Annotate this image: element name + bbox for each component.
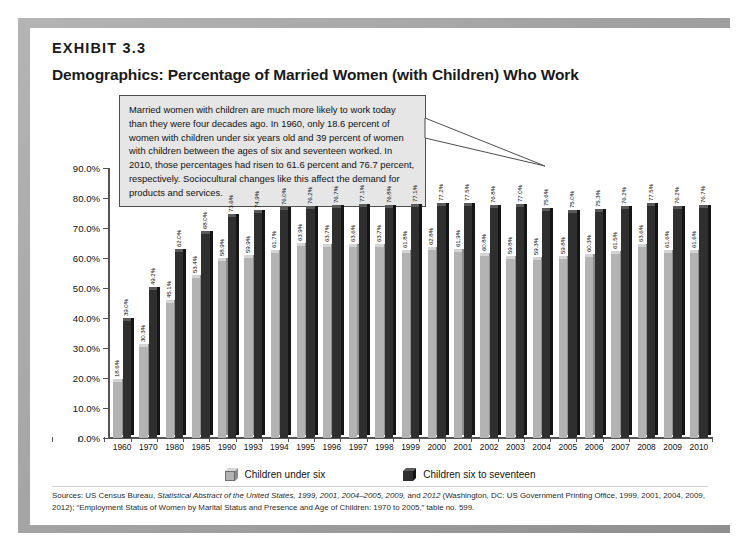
bar-face (297, 246, 305, 438)
bar-top-face (192, 275, 200, 278)
bar-group: 61.6%76.2% (664, 168, 682, 438)
bar-group: 61.9%77.5% (454, 168, 472, 438)
y-axis-tick (103, 288, 108, 289)
bar-face (306, 209, 314, 438)
x-axis-tick-label: 1994 (270, 442, 289, 452)
bar-value-label: 53.4% (191, 256, 198, 273)
x-axis-tick-label: 2000 (427, 442, 446, 452)
bar-value-label: 30.3% (139, 325, 146, 342)
bar-side-face (288, 207, 291, 435)
bar-value-label: 76.0% (280, 188, 287, 205)
bar-face (585, 257, 593, 438)
bar-face (638, 247, 646, 438)
y-axis-tick-label: 0.0% (78, 433, 100, 444)
bar-face (332, 208, 340, 438)
bar-value-label: 74.9% (253, 191, 260, 208)
x-axis-tick-label: 1995 (296, 442, 315, 452)
y-axis-tick-label: 50.0% (73, 283, 100, 294)
bar-side-face (393, 205, 396, 435)
bar-top-face (464, 203, 472, 206)
bar-value-label: 76.7% (699, 186, 706, 203)
chart-plot: 0.0%10.0%20.0%30.0%40.0%50.0%60.0%70.0%8… (52, 168, 712, 460)
bar-value-label: 63.6% (637, 225, 644, 242)
bar-side-face (550, 208, 553, 435)
exhibit-label: EXHIBIT 3.3 (52, 40, 146, 56)
bar-face (621, 209, 629, 438)
bar-face (437, 206, 445, 438)
bar-face (647, 206, 655, 439)
x-axis-tick (52, 437, 53, 442)
bar-face (280, 210, 288, 438)
bar-children-six-to-seventeen (254, 213, 262, 438)
bar-value-label: 77.0% (516, 185, 523, 202)
bar-top-face (218, 258, 226, 261)
bar-children-six-to-seventeen (568, 213, 576, 438)
bar-children-six-to-seventeen (621, 209, 629, 438)
bar-top-face (699, 205, 707, 208)
bar-group: 53.4%68.0% (192, 168, 210, 438)
bar-side-face (498, 205, 501, 435)
x-axis-tick-label: 2010 (690, 442, 709, 452)
bar-top-face (428, 247, 436, 250)
bar-children-six-to-seventeen (385, 208, 393, 438)
bar-children-under-six (585, 257, 593, 438)
bar-face (349, 247, 357, 438)
bar-side-face (708, 205, 711, 435)
bar-value-label: 75.3% (594, 190, 601, 207)
bar-top-face (516, 204, 524, 207)
bar-children-six-to-seventeen (306, 209, 314, 438)
bar-children-under-six (454, 252, 462, 438)
bar-face (218, 261, 226, 438)
x-axis-tick-label: 2008 (637, 442, 656, 452)
bar-face (673, 209, 681, 438)
bar-value-label: 73.6% (227, 195, 234, 212)
bar-value-label: 75.0% (568, 191, 575, 208)
legend-swatch-icon (225, 468, 238, 481)
bar-face (595, 212, 603, 438)
bar-side-face (603, 209, 606, 435)
bar-children-under-six (480, 256, 488, 438)
x-axis-tick-label: 2003 (506, 442, 525, 452)
bar-children-under-six (113, 382, 121, 438)
bar-value-label: 45.1% (165, 281, 172, 298)
legend-item[interactable]: Children under six (225, 468, 326, 481)
bar-face (464, 206, 472, 439)
legend-item[interactable]: Children six to seventeen (403, 468, 535, 481)
bar-children-under-six (192, 278, 200, 438)
y-axis-tick-label: 30.0% (73, 343, 100, 354)
legend-swatch-icon (403, 468, 416, 481)
bar-face (559, 259, 567, 438)
page-title: Demographics: Percentage of Married Wome… (52, 66, 579, 84)
x-axis-tick-label: 1985 (191, 442, 210, 452)
bar-value-label: 75.6% (542, 189, 549, 206)
x-axis-tick-label: 2009 (663, 442, 682, 452)
bar-top-face (411, 204, 419, 207)
bar-children-six-to-seventeen (595, 212, 603, 438)
bar-face (192, 278, 200, 438)
bar-group: 61.6%76.7% (690, 168, 708, 438)
bar-children-six-to-seventeen (411, 207, 419, 438)
source-note: Sources: US Census Bureau, Statistical A… (52, 490, 714, 515)
bar-value-label: 58.9% (218, 239, 225, 256)
bar-top-face (123, 318, 131, 321)
bar-value-label: 63.6% (349, 225, 356, 242)
bar-top-face (647, 203, 655, 206)
bar-face (244, 258, 252, 438)
bar-side-face (183, 249, 186, 435)
bar-face (166, 303, 174, 438)
bar-face (490, 208, 498, 438)
bar-face (385, 208, 393, 438)
bar-top-face (621, 206, 629, 209)
x-axis-tick-label: 2006 (585, 442, 604, 452)
source-prefix: Sources: US Census Bureau, (52, 491, 157, 500)
bar-value-label: 76.2% (306, 187, 313, 204)
bar-group: 63.7%76.8% (375, 168, 393, 438)
x-axis-tick-label: 1990 (218, 442, 237, 452)
bar-side-face (682, 206, 685, 435)
bar-value-label: 61.6% (690, 231, 697, 248)
bar-value-label: 77.5% (647, 183, 654, 200)
x-axis-tick (236, 437, 237, 442)
bar-value-label: 63.7% (323, 225, 330, 242)
bar-children-six-to-seventeen (332, 208, 340, 438)
bar-value-label: 77.5% (463, 183, 470, 200)
